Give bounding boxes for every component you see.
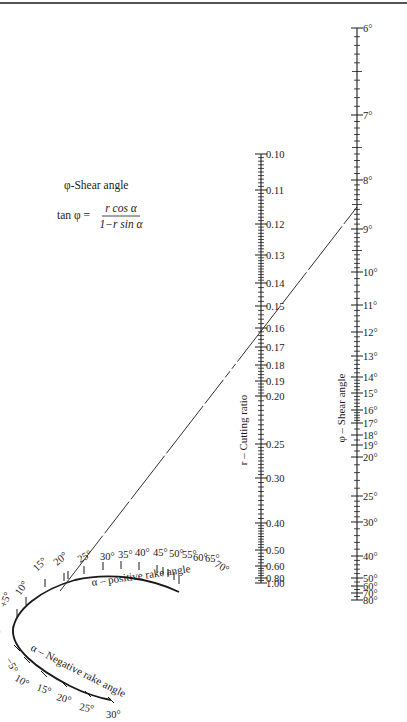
alpha-positive-tick-label: 10° <box>13 579 30 597</box>
phi-tick-label: 8° <box>363 175 372 186</box>
alpha-negative-tick-label: 10° <box>13 672 31 689</box>
alpha-negative-tick-label: 20° <box>55 691 72 705</box>
alpha-negative-tick-label: 15° <box>35 682 53 697</box>
r-tick-label: 1.00 <box>266 578 284 589</box>
phi-tick-label: 15° <box>363 388 378 399</box>
r-tick-label: 0.15 <box>266 301 284 312</box>
phi-tick-label: 10° <box>363 267 378 278</box>
phi-tick-label: 14° <box>363 372 378 383</box>
phi-tick-label: 13° <box>363 351 378 362</box>
r-tick-label: 0.11 <box>266 185 284 196</box>
phi-tick-label: 19° <box>363 440 378 451</box>
r-axis-title: r – Cutting ratio <box>237 394 249 465</box>
r-tick-label: 0.16 <box>266 323 284 334</box>
r-tick-label: 0.10 <box>266 149 284 160</box>
r-tick-label: 0.25 <box>266 439 284 450</box>
r-tick-label: 0.14 <box>266 278 285 289</box>
alpha-positive-tick-label: 0 <box>0 629 2 634</box>
alpha-positive-tick-label: 20° <box>51 550 69 568</box>
phi-axis-title: φ – Shear angle <box>335 373 347 442</box>
alpha-positive-tick-label: 30° <box>100 551 115 562</box>
phi-tick-label: 12° <box>363 327 378 338</box>
r-cutting-ratio-scale: 0.100.110.120.130.140.150.160.170.180.19… <box>255 149 285 589</box>
r-tick-label: 0.19 <box>266 376 284 387</box>
alpha-negative-tick-label: 30° <box>106 709 121 720</box>
r-tick-label: 0.12 <box>266 219 284 230</box>
r-tick-label: 0.18 <box>266 360 284 371</box>
alpha-positive-tick-label: 35° <box>118 549 133 560</box>
r-tick-label: 0.40 <box>266 518 284 529</box>
nomogram: 6°7°8°9°10°11°12°13°14°15°16°17°18°19°20… <box>0 0 407 722</box>
phi-tick-label: 80° <box>363 595 378 606</box>
formula-numerator: r cos α <box>105 202 138 214</box>
phi-tick-label: 6° <box>363 23 372 34</box>
alpha-positive-tick-label: 40° <box>135 547 150 558</box>
r-tick-label: 0.50 <box>266 545 284 556</box>
example-isopleth-line <box>60 207 357 591</box>
alpha-positive-tick-label: 15° <box>31 555 49 573</box>
phi-tick-label: 11° <box>363 300 377 311</box>
phi-tick-label: 9° <box>363 224 372 235</box>
r-tick-label: 0.17 <box>266 342 284 353</box>
formula-lhs: tan φ = <box>57 209 90 222</box>
alpha-positive-tick-label: +5° <box>0 590 13 608</box>
r-tick-label: 0.13 <box>266 250 284 261</box>
phi-tick-label: 25° <box>363 491 378 502</box>
formula-denominator: 1−r sin α <box>99 218 143 230</box>
phi-tick-label: 7° <box>363 110 372 121</box>
alpha-positive-tick-label: 45° <box>153 547 168 558</box>
legend-title: φ-Shear angle <box>64 179 128 192</box>
r-tick-label: 0.30 <box>266 473 284 484</box>
phi-tick-label: 40° <box>363 551 378 562</box>
r-tick-label: 0.20 <box>266 391 284 402</box>
phi-tick-label: 17° <box>363 418 378 429</box>
r-tick-label: 0.60 <box>266 561 284 572</box>
alpha-positive-title: α – positive rake angle <box>91 562 192 588</box>
phi-tick-label: 20° <box>363 452 378 463</box>
phi-tick-label: 30° <box>363 517 378 528</box>
phi-tick-label: 16° <box>363 405 378 416</box>
phi-shear-angle-scale: 6°7°8°9°10°11°12°13°14°15°16°17°18°19°20… <box>351 23 378 606</box>
alpha-negative-tick-label: 25° <box>79 701 95 714</box>
